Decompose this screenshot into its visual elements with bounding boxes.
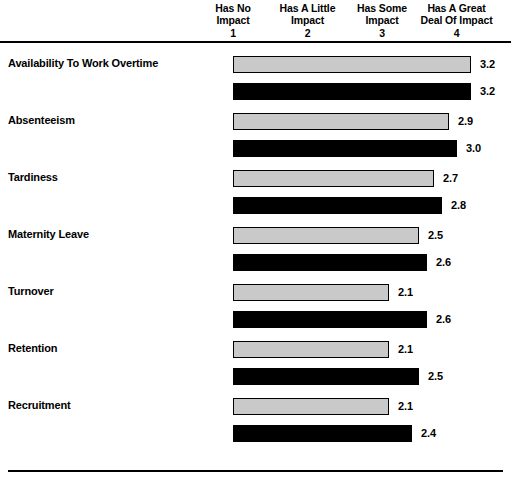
bar-series-a xyxy=(233,113,449,130)
bar-series-b xyxy=(233,197,442,214)
bar-group: 2.5 xyxy=(233,368,419,385)
bar-series-b xyxy=(233,311,427,328)
chart-row: Availability To Work Overtime3.23.2 xyxy=(0,48,511,105)
bar-group: 3.2 xyxy=(233,83,471,100)
category-label: Retention xyxy=(8,342,57,355)
category-label: Tardiness xyxy=(8,171,58,184)
category-label: Turnover xyxy=(8,285,54,298)
category-label: Absenteeism xyxy=(8,114,75,127)
bar-group: 2.6 xyxy=(233,311,427,328)
impact-rating-bar-chart: Has NoImpact1Has A LittleImpact2Has Some… xyxy=(0,0,511,487)
bar-value-label: 2.7 xyxy=(443,172,458,185)
category-label: Recruitment xyxy=(8,399,71,412)
bar-value-label: 2.1 xyxy=(398,343,413,356)
bar-value-label: 3.2 xyxy=(480,58,495,71)
scale-tick-4: Has A GreatDeal Of Impact4 xyxy=(402,2,511,39)
category-label: Maternity Leave xyxy=(8,228,89,241)
bar-value-label: 2.1 xyxy=(398,400,413,413)
bar-group: 3.2 xyxy=(233,56,471,73)
bar-value-label: 2.4 xyxy=(421,427,436,440)
bar-series-a xyxy=(233,398,389,415)
chart-row: Absenteeism2.93.0 xyxy=(0,105,511,162)
bar-value-label: 2.6 xyxy=(436,313,451,326)
category-label: Availability To Work Overtime xyxy=(8,57,158,70)
footer-rule xyxy=(8,470,503,472)
chart-row: Turnover2.12.6 xyxy=(0,276,511,333)
bar-series-b xyxy=(233,368,419,385)
bar-series-a xyxy=(233,341,389,358)
bar-group: 2.5 xyxy=(233,227,419,244)
scale-tick-number: 4 xyxy=(402,27,511,39)
bar-group: 2.8 xyxy=(233,197,442,214)
bar-value-label: 2.5 xyxy=(428,370,443,383)
chart-row: Retention2.12.5 xyxy=(0,333,511,390)
bar-series-a xyxy=(233,227,419,244)
bar-series-b xyxy=(233,140,457,157)
scale-tick-text: Has A Great xyxy=(402,2,511,14)
bar-group: 2.6 xyxy=(233,254,427,271)
plot-area: Availability To Work Overtime3.23.2Absen… xyxy=(0,42,511,470)
scale-tick-text: Deal Of Impact xyxy=(402,14,511,26)
bar-value-label: 2.1 xyxy=(398,286,413,299)
bar-series-b xyxy=(233,425,412,442)
bar-value-label: 2.6 xyxy=(436,256,451,269)
bar-value-label: 2.9 xyxy=(458,115,473,128)
bar-group: 3.0 xyxy=(233,140,457,157)
bar-group: 2.9 xyxy=(233,113,449,130)
bar-value-label: 3.2 xyxy=(480,85,495,98)
bar-series-b xyxy=(233,254,427,271)
bar-series-a xyxy=(233,56,471,73)
bar-value-label: 3.0 xyxy=(466,142,481,155)
bar-series-a xyxy=(233,170,434,187)
chart-row: Recruitment2.12.4 xyxy=(0,390,511,447)
bar-series-a xyxy=(233,284,389,301)
bar-group: 2.1 xyxy=(233,341,389,358)
bar-series-b xyxy=(233,83,471,100)
bar-group: 2.4 xyxy=(233,425,412,442)
bar-value-label: 2.8 xyxy=(451,199,466,212)
bar-value-label: 2.5 xyxy=(428,229,443,242)
chart-row: Maternity Leave2.52.6 xyxy=(0,219,511,276)
bar-group: 2.1 xyxy=(233,398,389,415)
bar-group: 2.1 xyxy=(233,284,389,301)
bar-group: 2.7 xyxy=(233,170,434,187)
chart-row: Tardiness2.72.8 xyxy=(0,162,511,219)
